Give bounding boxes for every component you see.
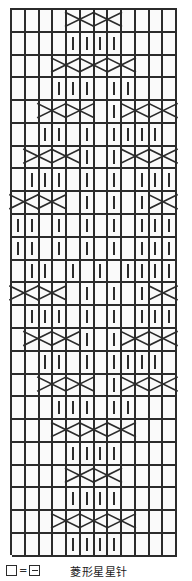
chart-cell	[163, 78, 177, 101]
chart-cell	[163, 238, 177, 261]
chart-cell	[40, 56, 54, 79]
chart-cell	[136, 329, 150, 352]
chart-cell	[108, 511, 122, 534]
chart-cell	[95, 124, 109, 147]
chart-cell	[108, 147, 122, 170]
chart-cell	[108, 261, 122, 284]
chart-cell	[95, 397, 109, 420]
chart-cell	[26, 488, 40, 511]
chart-cell	[53, 511, 67, 534]
chart-cell	[136, 283, 150, 306]
chart-cell	[150, 352, 164, 375]
chart-cell	[40, 397, 54, 420]
chart-cell	[12, 56, 26, 79]
chart-cell	[67, 397, 81, 420]
chart-cell	[53, 261, 67, 284]
chart-cell	[95, 534, 109, 557]
chart-cell	[81, 352, 95, 375]
chart-cell	[12, 215, 26, 238]
chart-row	[12, 215, 177, 238]
chart-cell	[163, 511, 177, 534]
chart-cell	[53, 124, 67, 147]
chart-cell	[136, 215, 150, 238]
chart-cell	[81, 147, 95, 170]
chart-cell	[122, 306, 136, 329]
chart-cell	[12, 329, 26, 352]
chart-cell	[67, 261, 81, 284]
chart-cell	[108, 192, 122, 215]
chart-cell	[40, 375, 54, 398]
chart-cell	[12, 33, 26, 56]
chart-cell	[26, 124, 40, 147]
chart-cell	[40, 10, 54, 33]
chart-cell	[81, 33, 95, 56]
chart-cell	[136, 169, 150, 192]
chart-cell	[95, 238, 109, 261]
chart-cell	[81, 169, 95, 192]
chart-row	[12, 33, 177, 56]
chart-row	[12, 283, 177, 306]
chart-cell	[12, 101, 26, 124]
chart-cell	[122, 352, 136, 375]
chart-cell	[12, 375, 26, 398]
chart-cell	[163, 283, 177, 306]
chart-cell	[136, 488, 150, 511]
chart-cell	[53, 10, 67, 33]
chart-cell	[67, 488, 81, 511]
chart-cell	[136, 397, 150, 420]
chart-cell	[67, 511, 81, 534]
chart-cell	[81, 283, 95, 306]
chart-cell	[40, 124, 54, 147]
chart-cell	[67, 10, 81, 33]
chart-cell	[12, 488, 26, 511]
chart-cell	[108, 306, 122, 329]
chart-cell	[53, 466, 67, 489]
chart-cell	[26, 397, 40, 420]
chart-cell	[122, 443, 136, 466]
chart-cell	[150, 33, 164, 56]
chart-cell	[108, 443, 122, 466]
chart-cell	[81, 261, 95, 284]
chart-cell	[136, 238, 150, 261]
chart-row	[12, 10, 177, 33]
chart-cell	[26, 56, 40, 79]
chart-row	[12, 169, 177, 192]
chart-cell	[108, 329, 122, 352]
chart-cell	[12, 147, 26, 170]
chart-cell	[12, 397, 26, 420]
chart-cell	[150, 101, 164, 124]
chart-cell	[150, 443, 164, 466]
chart-cell	[95, 352, 109, 375]
chart-cell	[67, 420, 81, 443]
chart-cell	[122, 420, 136, 443]
chart-cell	[122, 192, 136, 215]
chart-cell	[67, 283, 81, 306]
chart-cell	[40, 283, 54, 306]
chart-row	[12, 56, 177, 79]
chart-cell	[40, 169, 54, 192]
chart-cell	[108, 283, 122, 306]
chart-cell	[150, 397, 164, 420]
chart-cell	[12, 283, 26, 306]
chart-cell	[53, 534, 67, 557]
chart-cell	[81, 420, 95, 443]
chart-cell	[122, 33, 136, 56]
chart-row	[12, 534, 177, 557]
chart-cell	[122, 215, 136, 238]
chart-cell	[67, 33, 81, 56]
chart-cell	[95, 56, 109, 79]
chart-cell	[40, 33, 54, 56]
stitch-chart-grid	[10, 8, 177, 555]
chart-cell	[95, 169, 109, 192]
chart-cell	[95, 147, 109, 170]
chart-cell	[53, 420, 67, 443]
chart-cell	[95, 443, 109, 466]
chart-cell	[136, 10, 150, 33]
chart-cell	[81, 511, 95, 534]
chart-cell	[81, 329, 95, 352]
chart-cell	[150, 306, 164, 329]
chart-cell	[67, 375, 81, 398]
chart-cell	[136, 124, 150, 147]
chart-cell	[26, 329, 40, 352]
chart-cell	[26, 215, 40, 238]
